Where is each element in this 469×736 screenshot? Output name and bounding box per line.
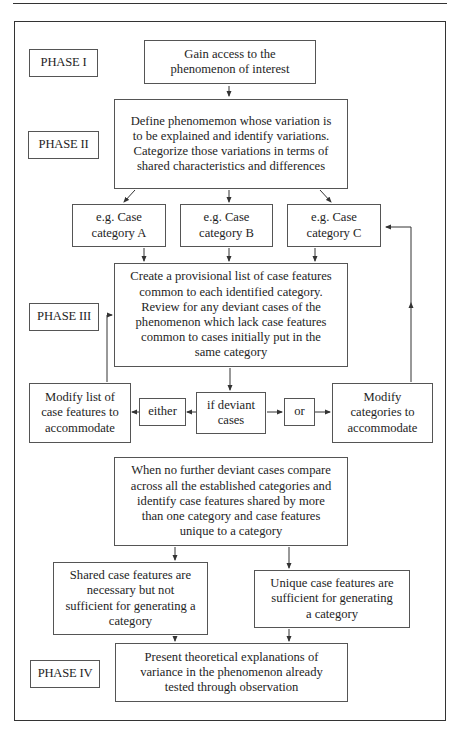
either-node: either bbox=[139, 398, 186, 426]
or-node: or bbox=[284, 398, 315, 426]
case-category-a-node: e.g. Case category A bbox=[72, 204, 166, 247]
case-category-b-node: e.g. Case category B bbox=[180, 204, 273, 247]
create-provisional-list-node: Create a provisional list of case featur… bbox=[114, 263, 348, 367]
no-further-deviant-cases-node: When no further deviant cases compare ac… bbox=[114, 457, 348, 546]
gain-access-node: Gain access to the phenomenon of interes… bbox=[144, 40, 316, 84]
present-explanations-node: Present theoretical explanations of vari… bbox=[115, 643, 348, 702]
shared-case-features-node: Shared case features are necessary but n… bbox=[53, 562, 208, 635]
define-phenomenon-node: Define phenomemon whose variation is to … bbox=[114, 99, 348, 189]
if-deviant-cases-node: if deviant cases bbox=[196, 392, 266, 434]
modify-list-node: Modify list of case features to accommod… bbox=[29, 383, 131, 443]
modify-categories-node: Modify categories to accommodate bbox=[332, 383, 433, 443]
unique-case-features-node: Unique case features are sufficient for … bbox=[254, 570, 410, 628]
phase-2-label: PHASE II bbox=[28, 131, 99, 159]
phase-3-label: PHASE III bbox=[29, 303, 99, 331]
top-rule bbox=[13, 3, 447, 4]
phase-1-label: PHASE I bbox=[29, 49, 98, 77]
case-category-c-node: e.g. Case category C bbox=[287, 204, 381, 247]
phase-4-label: PHASE IV bbox=[30, 660, 100, 688]
